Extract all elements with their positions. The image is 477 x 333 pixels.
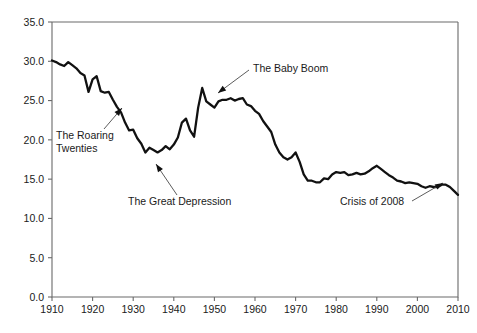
x-tick-label: 2010 — [446, 303, 470, 315]
annotation-text: Crisis of 2008 — [340, 195, 404, 207]
annotation-text: The Baby Boom — [253, 62, 329, 74]
x-tick-label: 2000 — [406, 303, 430, 315]
annotation-text: The Roaring — [56, 129, 114, 141]
x-tick-label: 1920 — [81, 303, 105, 315]
chart-background — [0, 0, 477, 333]
x-tick-label: 1970 — [284, 303, 308, 315]
y-tick-label: 35.0 — [24, 16, 45, 28]
x-tick-label: 1960 — [243, 303, 267, 315]
birth-rate-line-chart: 0.05.010.015.020.025.030.035.0 191019201… — [0, 0, 477, 333]
chart-container: 0.05.010.015.020.025.030.035.0 191019201… — [0, 0, 477, 333]
x-tick-label: 1930 — [122, 303, 146, 315]
y-tick-label: 30.0 — [24, 55, 45, 67]
x-tick-label: 1940 — [162, 303, 186, 315]
y-tick-label: 25.0 — [24, 94, 45, 106]
annotation-text: Twenties — [56, 142, 97, 154]
x-tick-label: 1990 — [365, 303, 389, 315]
annotation-text: The Great Depression — [128, 195, 231, 207]
y-tick-label: 0.0 — [29, 291, 44, 303]
y-tick-label: 20.0 — [24, 134, 45, 146]
x-tick-label: 1980 — [325, 303, 349, 315]
x-tick-label: 1950 — [203, 303, 227, 315]
x-tick-label: 1910 — [40, 303, 64, 315]
y-tick-label: 5.0 — [29, 252, 44, 264]
y-tick-label: 10.0 — [24, 212, 45, 224]
y-tick-label: 15.0 — [24, 173, 45, 185]
